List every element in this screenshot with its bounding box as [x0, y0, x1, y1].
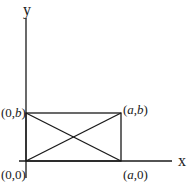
coordinate-diagram: y x (0,b) (a,b) (0,0) (a,0) — [0, 0, 191, 183]
vertex-label-a0: (a,0) — [123, 167, 148, 182]
vertex-label-ab: (a,b) — [123, 102, 148, 117]
y-axis-label: y — [23, 1, 31, 19]
x-axis-label: x — [178, 152, 186, 169]
vertex-label-0b: (0,b) — [1, 105, 26, 120]
vertex-label-origin: (0,0) — [1, 167, 26, 182]
